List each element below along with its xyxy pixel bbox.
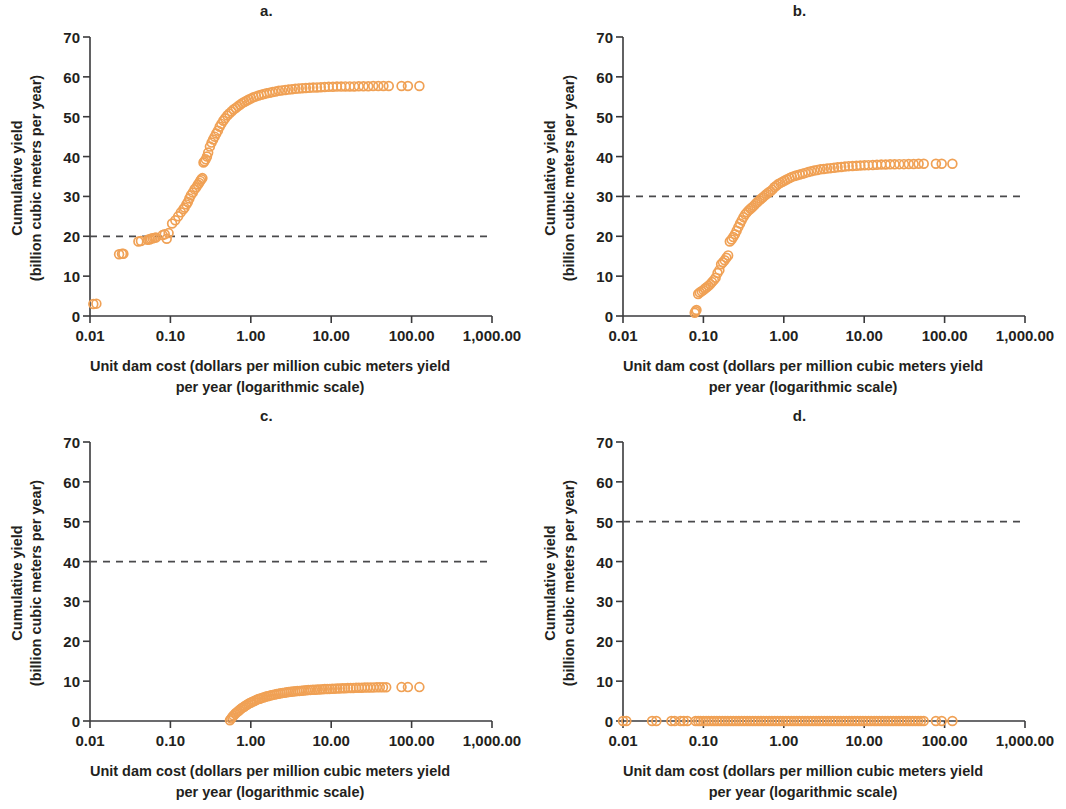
x-tick-label-d-0: 0.01	[608, 732, 637, 749]
y-tick-label-d-5: 50	[577, 513, 613, 530]
y-tick-label-b-4: 40	[577, 148, 613, 165]
y-tick-label-a-3: 30	[44, 188, 80, 205]
y-tick-label-c-6: 60	[44, 473, 80, 490]
x-tick-label-b-4: 100.00	[922, 327, 968, 344]
y-tick-label-c-7: 70	[44, 434, 80, 451]
x-tick-label-a-3: 10.00	[312, 327, 350, 344]
y-tick-label-a-1: 10	[44, 268, 80, 285]
x-axis-label-line1-a: Unit dam cost (dollars per million cubic…	[30, 356, 510, 377]
data-series-a	[89, 82, 424, 309]
x-axis-label-d: Unit dam cost (dollars per million cubic…	[563, 761, 1043, 803]
y-tick-label-a-4: 40	[44, 148, 80, 165]
y-tick-label-d-4: 40	[577, 553, 613, 570]
y-tick-label-c-2: 20	[44, 633, 80, 650]
x-tick-label-a-2: 1.00	[236, 327, 265, 344]
x-tick-label-a-5: 1,000.00	[463, 327, 521, 344]
x-tick-label-a-1: 0.10	[156, 327, 185, 344]
y-tick-label-a-6: 60	[44, 68, 80, 85]
x-tick-label-c-3: 10.00	[312, 732, 350, 749]
data-point	[384, 82, 393, 91]
y-tick-label-b-1: 10	[577, 268, 613, 285]
data-point	[415, 683, 424, 692]
x-axis-label-line2-a: per year (logarithmic scale)	[30, 377, 510, 398]
panel-c: c.Cumulative yield (billion cubic meters…	[0, 405, 533, 809]
x-tick-label-b-5: 1,000.00	[996, 327, 1054, 344]
data-series-b	[690, 159, 956, 317]
y-tick-label-a-0: 0	[44, 308, 80, 325]
y-tick-label-d-1: 10	[577, 673, 613, 690]
x-tick-label-c-1: 0.10	[156, 732, 185, 749]
x-axis-label-a: Unit dam cost (dollars per million cubic…	[30, 356, 510, 398]
x-tick-label-c-5: 1,000.00	[463, 732, 521, 749]
figure-root: a.Cumulative yield (billion cubic meters…	[0, 0, 1066, 809]
x-axis-label-line2-b: per year (logarithmic scale)	[563, 377, 1043, 398]
x-tick-label-d-4: 100.00	[922, 732, 968, 749]
x-tick-label-c-0: 0.01	[75, 732, 104, 749]
y-tick-label-b-2: 20	[577, 228, 613, 245]
y-tick-label-a-7: 70	[44, 29, 80, 46]
x-tick-label-d-5: 1,000.00	[996, 732, 1054, 749]
x-axis-label-line2-d: per year (logarithmic scale)	[563, 782, 1043, 803]
y-tick-label-b-7: 70	[577, 29, 613, 46]
x-axis-label-line2-c: per year (logarithmic scale)	[30, 782, 510, 803]
y-tick-label-c-0: 0	[44, 713, 80, 730]
y-tick-label-a-2: 20	[44, 228, 80, 245]
data-point	[404, 82, 413, 91]
panel-a: a.Cumulative yield (billion cubic meters…	[0, 0, 533, 404]
panel-b: b.Cumulative yield (billion cubic meters…	[533, 0, 1066, 404]
x-tick-label-b-1: 0.10	[689, 327, 718, 344]
x-axis-label-c: Unit dam cost (dollars per million cubic…	[30, 761, 510, 803]
data-point	[937, 159, 946, 168]
y-tick-label-d-0: 0	[577, 713, 613, 730]
data-point	[415, 82, 424, 91]
x-tick-label-d-2: 1.00	[769, 732, 798, 749]
x-axis-label-line1-d: Unit dam cost (dollars per million cubic…	[563, 761, 1043, 782]
x-axis-label-line1-b: Unit dam cost (dollars per million cubic…	[563, 356, 1043, 377]
x-tick-label-d-3: 10.00	[845, 732, 883, 749]
x-tick-label-b-2: 1.00	[769, 327, 798, 344]
y-tick-label-b-6: 60	[577, 68, 613, 85]
y-tick-label-c-4: 40	[44, 553, 80, 570]
data-series-c	[226, 683, 424, 725]
y-tick-label-d-6: 60	[577, 473, 613, 490]
y-tick-label-b-3: 30	[577, 188, 613, 205]
y-tick-label-c-5: 50	[44, 513, 80, 530]
x-tick-label-c-4: 100.00	[389, 732, 435, 749]
x-tick-label-a-4: 100.00	[389, 327, 435, 344]
data-point	[948, 159, 957, 168]
x-tick-label-b-0: 0.01	[608, 327, 637, 344]
y-tick-label-c-3: 30	[44, 593, 80, 610]
y-tick-label-b-0: 0	[577, 308, 613, 325]
x-tick-label-d-1: 0.10	[689, 732, 718, 749]
data-point	[404, 683, 413, 692]
x-axis-label-b: Unit dam cost (dollars per million cubic…	[563, 356, 1043, 398]
y-tick-label-d-7: 70	[577, 434, 613, 451]
y-tick-label-b-5: 50	[577, 108, 613, 125]
y-tick-label-a-5: 50	[44, 108, 80, 125]
x-tick-label-c-2: 1.00	[236, 732, 265, 749]
y-tick-label-c-1: 10	[44, 673, 80, 690]
y-tick-label-d-3: 30	[577, 593, 613, 610]
x-tick-label-a-0: 0.01	[75, 327, 104, 344]
x-axis-label-line1-c: Unit dam cost (dollars per million cubic…	[30, 761, 510, 782]
panel-d: d.Cumulative yield (billion cubic meters…	[533, 405, 1066, 809]
x-tick-label-b-3: 10.00	[845, 327, 883, 344]
y-tick-label-d-2: 20	[577, 633, 613, 650]
